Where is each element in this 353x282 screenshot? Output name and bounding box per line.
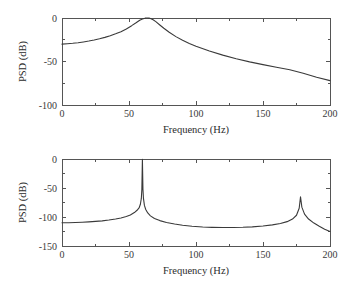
- x-tick-label: 150: [256, 249, 271, 260]
- psd-curve: [62, 18, 330, 81]
- y-tick-label: 0: [52, 154, 57, 165]
- y-axis-title: PSD (dB): [17, 181, 29, 223]
- x-tick-label: 50: [124, 108, 134, 119]
- y-tick-label: -50: [44, 56, 57, 67]
- plot-area-bottom: 0501001502000-50-100-150Frequency (Hz)PS…: [0, 141, 353, 282]
- x-tick-label: 50: [124, 249, 134, 260]
- x-tick-label: 200: [323, 108, 338, 119]
- y-tick-label: 0: [52, 13, 57, 24]
- x-axis-title: Frequency (Hz): [163, 265, 230, 277]
- psd-figure: 0501001502000-50-100Frequency (Hz)PSD (d…: [0, 0, 353, 282]
- y-tick-label: -50: [44, 183, 57, 194]
- x-axis-title: Frequency (Hz): [163, 124, 230, 136]
- chart-panel-bottom: 0501001502000-50-100-150Frequency (Hz)PS…: [0, 141, 353, 282]
- x-tick-label: 200: [323, 249, 338, 260]
- x-tick-label: 100: [189, 249, 204, 260]
- plot-area-top: 0501001502000-50-100Frequency (Hz)PSD (d…: [0, 0, 353, 141]
- y-tick-label: -150: [39, 241, 57, 252]
- y-axis-title: PSD (dB): [17, 40, 29, 82]
- psd-curve: [62, 159, 330, 231]
- x-tick-label: 0: [60, 249, 65, 260]
- x-tick-label: 0: [60, 108, 65, 119]
- plot-frame: [62, 18, 330, 105]
- x-tick-label: 150: [256, 108, 271, 119]
- y-tick-label: -100: [39, 212, 57, 223]
- y-tick-label: -100: [39, 100, 57, 111]
- chart-panel-top: 0501001502000-50-100Frequency (Hz)PSD (d…: [0, 0, 353, 141]
- x-tick-label: 100: [189, 108, 204, 119]
- plot-frame: [62, 159, 330, 246]
